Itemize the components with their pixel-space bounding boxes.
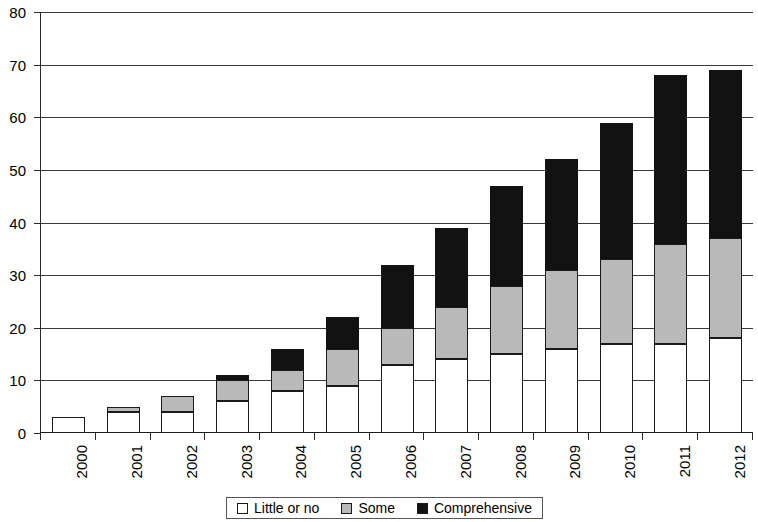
bar-group <box>271 12 304 433</box>
bar-segment <box>490 286 523 354</box>
bar-group <box>435 12 468 433</box>
bar-group <box>52 12 85 433</box>
x-tick-mark <box>423 433 424 440</box>
bar-segment <box>216 375 249 380</box>
bar-group <box>709 12 742 433</box>
bar-segment <box>709 238 742 338</box>
bar-segment <box>52 417 85 433</box>
bar-segment <box>709 338 742 433</box>
y-tick-mark <box>34 65 40 66</box>
bar-group <box>326 12 359 433</box>
bar-segment <box>654 344 687 433</box>
bar-segment <box>216 380 249 401</box>
y-tick-label: 80 <box>9 5 26 20</box>
y-tick-label: 0 <box>18 426 26 441</box>
bar-segment <box>600 123 633 260</box>
y-tick-mark <box>34 170 40 171</box>
bar-segment <box>654 244 687 344</box>
bar-segment <box>381 365 414 433</box>
y-tick-label: 10 <box>9 373 26 388</box>
y-tick-label: 60 <box>9 110 26 125</box>
bar-segment <box>216 401 249 433</box>
x-tick-mark <box>642 433 643 440</box>
bar-group <box>490 12 523 433</box>
x-tick-label-2007: 2007 <box>458 445 473 478</box>
legend-label: Little or no <box>254 501 319 515</box>
bar-segment <box>435 359 468 433</box>
bar-group <box>381 12 414 433</box>
bar-segment <box>545 159 578 270</box>
bar-segment <box>709 70 742 238</box>
stacked-bar-chart: 01020304050607080 Little or noSomeCompre… <box>0 0 758 522</box>
y-tick-label: 30 <box>9 268 26 283</box>
bar-segment <box>326 386 359 433</box>
bar-group <box>600 12 633 433</box>
y-tick-label: 70 <box>9 57 26 72</box>
black-square-icon <box>417 503 428 514</box>
x-tick-label-2000: 2000 <box>74 445 89 478</box>
bar-segment <box>545 270 578 349</box>
bar-group <box>216 12 249 433</box>
bar-segment <box>381 328 414 365</box>
y-tick-mark <box>34 223 40 224</box>
bar-segment <box>654 75 687 243</box>
x-tick-mark <box>95 433 96 440</box>
x-tick-mark <box>752 433 753 440</box>
y-tick-mark <box>34 275 40 276</box>
x-tick-label-2012: 2012 <box>732 445 747 478</box>
x-tick-mark <box>204 433 205 440</box>
bar-segment <box>381 265 414 328</box>
legend: Little or noSomeComprehensive <box>226 497 543 519</box>
legend-label: Comprehensive <box>434 501 532 515</box>
plot-area <box>40 12 753 433</box>
x-tick-mark <box>697 433 698 440</box>
bar-segment <box>435 228 468 307</box>
x-tick-label-2004: 2004 <box>293 445 308 478</box>
white-square-icon <box>237 503 248 514</box>
bar-segment <box>490 354 523 433</box>
bar-segment <box>161 412 194 433</box>
y-tick-label: 40 <box>9 215 26 230</box>
legend-item: Some <box>341 501 395 515</box>
x-tick-label-2006: 2006 <box>403 445 418 478</box>
bar-segment <box>600 259 633 343</box>
legend-label: Some <box>358 501 395 515</box>
x-tick-label-2010: 2010 <box>622 445 637 478</box>
legend-item: Little or no <box>237 501 319 515</box>
x-tick-mark <box>314 433 315 440</box>
x-tick-label-2011: 2011 <box>677 445 692 477</box>
gray-square-icon <box>341 503 352 514</box>
x-tick-label-2003: 2003 <box>239 445 254 478</box>
x-tick-label-2001: 2001 <box>129 445 144 478</box>
y-tick-label: 20 <box>9 320 26 335</box>
y-tick-mark <box>34 12 40 13</box>
bar-group <box>545 12 578 433</box>
bar-group <box>654 12 687 433</box>
legend-item: Comprehensive <box>417 501 532 515</box>
x-tick-mark <box>533 433 534 440</box>
bar-segment <box>271 370 304 391</box>
bar-group <box>161 12 194 433</box>
x-tick-label-2009: 2009 <box>567 445 582 478</box>
x-tick-label-2002: 2002 <box>184 445 199 478</box>
bar-segment <box>107 412 140 433</box>
x-tick-mark <box>259 433 260 440</box>
y-tick-mark <box>34 380 40 381</box>
x-tick-mark <box>369 433 370 440</box>
bar-segment <box>326 349 359 386</box>
bar-segment <box>435 307 468 360</box>
x-tick-mark <box>588 433 589 440</box>
x-tick-label-2008: 2008 <box>513 445 528 478</box>
bar-segment <box>107 407 140 412</box>
y-axis: 01020304050607080 <box>0 0 34 522</box>
bar-segment <box>545 349 578 433</box>
x-tick-mark <box>150 433 151 440</box>
bar-segment <box>271 349 304 370</box>
bar-segment <box>271 391 304 433</box>
y-tick-label: 50 <box>9 162 26 177</box>
y-tick-mark <box>34 328 40 329</box>
bar-segment <box>161 396 194 412</box>
bar-segment <box>326 317 359 349</box>
y-tick-mark <box>34 117 40 118</box>
x-tick-mark <box>40 433 41 440</box>
